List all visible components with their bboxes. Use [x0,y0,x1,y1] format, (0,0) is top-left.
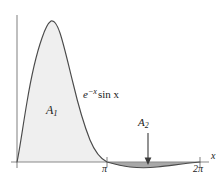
function-trig: sin x [98,88,119,100]
area-a2-letter: A [138,116,145,128]
area-a1-label: A1 [46,104,58,118]
x-tick-label-two-pi: 2π [193,164,203,174]
function-label: e−x sin x [83,88,119,100]
function-exponent: −x [88,87,97,96]
x-tick-label-pi: π [102,164,107,174]
area-a2-label: A2 [138,117,149,130]
area-a1-subscript: 1 [53,108,57,118]
x-axis-label: x [211,151,215,161]
area-a2-subscript: 2 [145,121,149,130]
a2-pointer-arrow [145,133,152,165]
figure-container: A1 A2 e−x sin x π 2π x [0,0,223,181]
